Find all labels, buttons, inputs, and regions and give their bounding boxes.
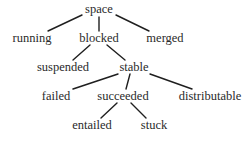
- node-merged: merged: [146, 31, 184, 45]
- tree-diagram: spacerunningblockedmergedsuspendedstable…: [0, 0, 252, 142]
- edge-blocked-to-suspended: [73, 45, 90, 60]
- edge-stable-to-failed: [73, 74, 118, 89]
- edge-stable-to-succeeded: [126, 74, 130, 89]
- node-succeeded: succeeded: [97, 89, 149, 103]
- edge-succeeded-to-entailed: [101, 103, 117, 118]
- edge-stable-to-distributable: [150, 74, 192, 89]
- edge-space-to-running: [48, 15, 82, 31]
- edge-succeeded-to-stuck: [131, 103, 146, 118]
- node-stuck: stuck: [141, 118, 168, 132]
- node-failed: failed: [42, 89, 71, 103]
- edge-blocked-to-stable: [107, 45, 125, 60]
- node-suspended: suspended: [37, 60, 90, 74]
- node-running: running: [13, 31, 53, 45]
- node-stable: stable: [119, 60, 149, 74]
- node-distributable: distributable: [179, 89, 242, 103]
- node-entailed: entailed: [72, 118, 112, 132]
- edge-space-to-merged: [116, 15, 149, 31]
- node-blocked: blocked: [79, 31, 119, 45]
- tree-nodes: spacerunningblockedmergedsuspendedstable…: [13, 2, 242, 132]
- node-space: space: [85, 2, 113, 16]
